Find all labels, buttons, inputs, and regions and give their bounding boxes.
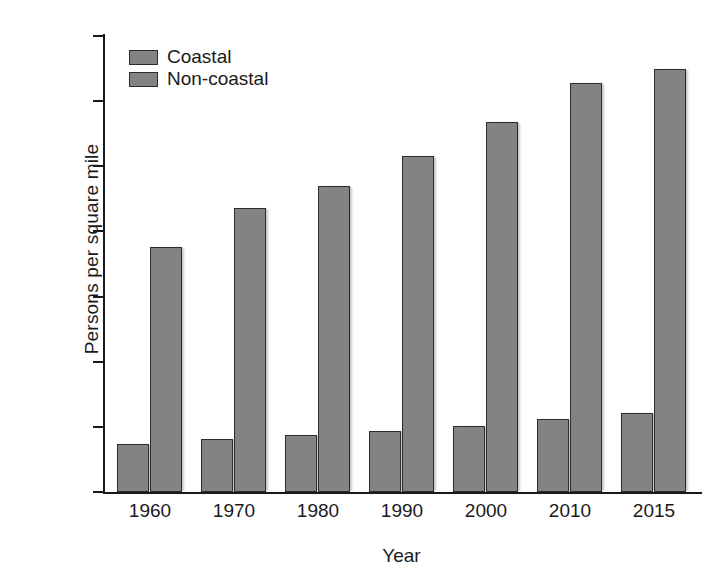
legend-label: Non-coastal bbox=[167, 68, 268, 90]
x-tick-label: 1980 bbox=[273, 500, 363, 522]
bar-coastal bbox=[285, 435, 317, 492]
bar-group bbox=[201, 36, 267, 492]
bar-group bbox=[453, 36, 519, 492]
bar-groups bbox=[103, 36, 700, 492]
bar-coastal bbox=[453, 426, 485, 492]
bar-non-coastal bbox=[402, 156, 434, 492]
x-axis-line bbox=[103, 492, 702, 494]
bar-non-coastal bbox=[570, 83, 602, 492]
bar-non-coastal bbox=[318, 186, 350, 492]
bar-chart: Persons per square mile 0501001502002503… bbox=[0, 0, 718, 580]
bar-non-coastal bbox=[654, 69, 686, 492]
bar-non-coastal bbox=[486, 122, 518, 492]
bar-coastal bbox=[621, 413, 653, 492]
x-tick-label: 1960 bbox=[105, 500, 195, 522]
bar-group bbox=[369, 36, 435, 492]
y-axis-title: Persons per square mile bbox=[81, 99, 103, 399]
bar-coastal bbox=[369, 431, 401, 492]
bar-coastal bbox=[537, 419, 569, 492]
legend-item-coastal: Coastal bbox=[129, 46, 268, 68]
bar-group bbox=[117, 36, 183, 492]
x-tick-label: 2010 bbox=[525, 500, 615, 522]
x-tick-label: 2000 bbox=[441, 500, 531, 522]
bar-group bbox=[621, 36, 687, 492]
chart-legend: Coastal Non-coastal bbox=[129, 46, 268, 90]
x-tick-label: 1990 bbox=[357, 500, 447, 522]
bar-non-coastal bbox=[234, 208, 266, 492]
x-axis-title: Year bbox=[103, 545, 700, 567]
legend-label: Coastal bbox=[167, 46, 231, 68]
bar-group bbox=[537, 36, 603, 492]
bar-coastal bbox=[201, 439, 233, 492]
legend-swatch-icon bbox=[129, 50, 158, 65]
bar-non-coastal bbox=[150, 247, 182, 492]
bar-coastal bbox=[117, 444, 149, 492]
x-tick-label: 2015 bbox=[609, 500, 699, 522]
bar-group bbox=[285, 36, 351, 492]
x-tick-label: 1970 bbox=[189, 500, 279, 522]
legend-swatch-icon bbox=[129, 72, 158, 87]
legend-item-non-coastal: Non-coastal bbox=[129, 68, 268, 90]
